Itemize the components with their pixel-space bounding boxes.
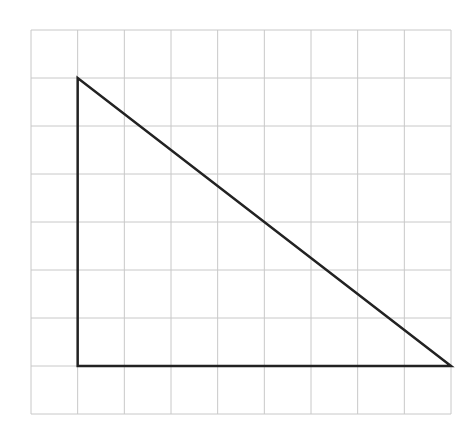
grid-lines	[31, 30, 451, 414]
grid-triangle-diagram	[0, 0, 471, 433]
